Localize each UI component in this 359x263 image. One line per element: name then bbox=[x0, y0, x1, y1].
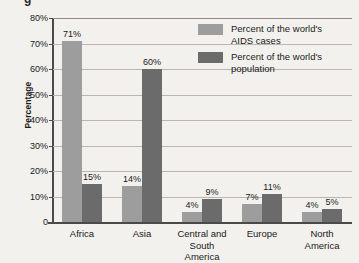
y-axis-tick-label: 30% bbox=[8, 141, 48, 151]
bar bbox=[142, 69, 162, 222]
x-axis-category-label: Europe bbox=[232, 228, 292, 240]
y-axis-tick-label: 10% bbox=[8, 192, 48, 202]
y-axis-tick bbox=[49, 69, 53, 70]
chart-legend: Percent of the world's AIDS cases Percen… bbox=[198, 23, 322, 79]
legend-item-aids-cases: Percent of the world's AIDS cases bbox=[198, 23, 322, 46]
legend-item-population: Percent of the world's population bbox=[198, 51, 322, 74]
gridline bbox=[52, 146, 352, 147]
bar-value-label: 60% bbox=[136, 57, 168, 67]
y-axis-tick-label: 20% bbox=[8, 166, 48, 176]
x-axis-category-label: North America bbox=[292, 228, 352, 251]
bar bbox=[62, 41, 82, 222]
bar bbox=[82, 184, 102, 222]
y-axis-tick-label: 50% bbox=[8, 90, 48, 100]
bar-value-label: 5% bbox=[316, 197, 348, 207]
bar-value-label: 9% bbox=[196, 187, 228, 197]
bar-value-label: 71% bbox=[56, 29, 88, 39]
gridline bbox=[52, 120, 352, 121]
y-axis-tick-label: 40% bbox=[8, 115, 48, 125]
y-axis-tick bbox=[49, 171, 53, 172]
y-axis-tick bbox=[49, 197, 53, 198]
y-axis-tick bbox=[49, 18, 53, 19]
gridline bbox=[52, 18, 352, 19]
x-axis-category-label: Asia bbox=[112, 228, 172, 240]
bar bbox=[242, 204, 262, 222]
bar bbox=[122, 186, 142, 222]
y-axis-tick bbox=[49, 44, 53, 45]
legend-swatch-population bbox=[198, 52, 223, 63]
legend-label-population: Percent of the world's population bbox=[231, 51, 322, 74]
bar bbox=[182, 212, 202, 222]
y-axis-tick-label: 60% bbox=[8, 64, 48, 74]
bar-value-label: 11% bbox=[256, 182, 288, 192]
legend-swatch-aids-cases bbox=[198, 24, 223, 35]
bar-value-label: 15% bbox=[76, 172, 108, 182]
y-axis-tick-label: 0 bbox=[8, 217, 48, 227]
chart-title-truncated: g bbox=[24, 0, 32, 6]
bar bbox=[262, 194, 282, 222]
y-axis-tick-label: 70% bbox=[8, 39, 48, 49]
gridline bbox=[52, 95, 352, 96]
y-axis-tick bbox=[49, 146, 53, 147]
x-axis-line bbox=[48, 222, 352, 224]
y-axis-tick bbox=[49, 95, 53, 96]
bar bbox=[202, 199, 222, 222]
y-axis-tick bbox=[49, 222, 53, 223]
x-axis-category-label: Africa bbox=[52, 228, 112, 240]
bar bbox=[322, 209, 342, 222]
legend-label-aids-cases: Percent of the world's AIDS cases bbox=[231, 23, 322, 46]
x-axis-category-label: Central and South America bbox=[172, 228, 232, 263]
bar bbox=[302, 212, 322, 222]
bar-chart: g Percentage 71%15%14%60%4%9%7%11%4%5% P… bbox=[0, 0, 359, 263]
y-axis-tick-label: 80% bbox=[8, 13, 48, 23]
y-axis-tick bbox=[49, 120, 53, 121]
